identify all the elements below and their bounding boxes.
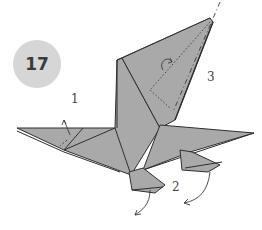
callout-2: 2 [172,180,180,194]
left-wing [17,128,131,175]
foot-right [180,150,220,172]
foot-left [129,168,165,193]
callout-1: 1 [71,92,79,106]
origami-diagram [0,0,262,230]
callout-3: 3 [207,70,215,84]
